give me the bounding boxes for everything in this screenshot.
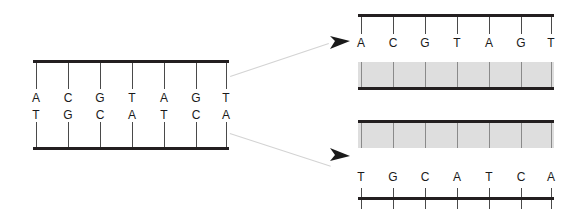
separated-bottom-strand-panel: T G C A T C A [330, 110, 578, 219]
top-strand-base: T [544, 37, 558, 49]
leader-line-to-bottom-strand [230, 133, 331, 167]
duplex-top-tick [164, 63, 165, 89]
duplex-top-base: A [29, 92, 43, 104]
bottom-strand-base: T [354, 171, 368, 183]
top-strand-tick [361, 17, 362, 34]
duplex-top-tick [100, 63, 101, 89]
template-band-tick [521, 123, 522, 148]
template-band-tick [489, 123, 490, 148]
template-band-tick [551, 123, 552, 148]
template-band-tick [489, 62, 490, 87]
top-strand-tick [521, 17, 522, 34]
top-strand-template-backbone [358, 87, 554, 90]
template-band-tick [551, 62, 552, 87]
bottom-strand-template-band [358, 123, 554, 148]
bottom-strand-base: A [544, 171, 558, 183]
top-strand-tick [489, 17, 490, 34]
duplex-top-tick [132, 63, 133, 89]
duplex-bottom-tick [196, 122, 197, 147]
template-band-tick [457, 62, 458, 87]
top-strand-backbone [358, 14, 554, 17]
duplex-top-tick [226, 63, 227, 89]
duplex-bottom-tick [164, 122, 165, 147]
duplex-bottom-tick [226, 122, 227, 147]
duplex-top-base: T [125, 92, 139, 104]
separated-top-strand-panel: A C G T A G T [330, 0, 578, 95]
duplex-bottom-base: C [189, 109, 203, 121]
template-band-tick [521, 62, 522, 87]
template-band-tick [425, 62, 426, 87]
bottom-strand-base: G [386, 171, 400, 183]
duplex-bottom-base: A [219, 109, 233, 121]
top-strand-tick [551, 17, 552, 34]
duplex-top-base: T [219, 92, 233, 104]
top-strand-base: G [514, 37, 528, 49]
leader-line-to-top-strand [230, 43, 329, 77]
bottom-strand-base: A [450, 171, 464, 183]
duplex-bottom-base: T [29, 109, 43, 121]
top-strand-tick [425, 17, 426, 34]
duplex-top-backbone [33, 60, 229, 63]
top-strand-template-band [358, 62, 554, 87]
duplex-bottom-base: G [61, 109, 75, 121]
top-strand-base: A [354, 37, 368, 49]
duplex-bottom-tick [36, 122, 37, 147]
top-strand-tick [393, 17, 394, 34]
duplex-bottom-base: C [93, 109, 107, 121]
dna-duplex-diagram: A C G T A G T T G C A T C A [0, 0, 240, 219]
duplex-bottom-backbone [33, 147, 229, 150]
template-band-tick [361, 62, 362, 87]
bottom-strand-backbone [358, 197, 554, 200]
bottom-strand-base: C [418, 171, 432, 183]
top-strand-tick [457, 17, 458, 34]
duplex-top-base: G [189, 92, 203, 104]
template-band-tick [425, 123, 426, 148]
template-band-tick [393, 62, 394, 87]
duplex-top-tick [196, 63, 197, 89]
duplex-bottom-tick [132, 122, 133, 147]
top-strand-base: A [482, 37, 496, 49]
duplex-top-base: G [93, 92, 107, 104]
duplex-top-tick [36, 63, 37, 89]
top-strand-base: G [418, 37, 432, 49]
duplex-bottom-tick [100, 122, 101, 147]
bottom-strand-base: T [482, 171, 496, 183]
bottom-strand-base: C [514, 171, 528, 183]
template-band-tick [457, 123, 458, 148]
top-strand-base: T [450, 37, 464, 49]
duplex-bottom-base: A [125, 109, 139, 121]
duplex-top-tick [68, 63, 69, 89]
duplex-bottom-base: T [157, 109, 171, 121]
duplex-top-base: A [157, 92, 171, 104]
duplex-bottom-tick [68, 122, 69, 147]
template-band-tick [361, 123, 362, 148]
duplex-top-base: C [61, 92, 75, 104]
template-band-tick [393, 123, 394, 148]
top-strand-base: C [386, 37, 400, 49]
